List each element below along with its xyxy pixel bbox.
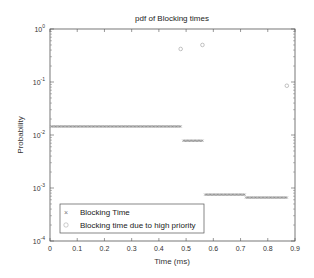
- y-tick-label: 10-3: [33, 182, 45, 192]
- x-tick-label: 0.8: [263, 245, 273, 252]
- x-tick-label: 0.2: [100, 245, 110, 252]
- x-marker-icon: ×: [64, 209, 68, 216]
- x-tick-label: 0.7: [236, 245, 246, 252]
- x-tick-label: 0.9: [290, 245, 300, 252]
- x-axis-label: Time (ms): [154, 257, 190, 266]
- x-tick-label: 0.5: [181, 245, 191, 252]
- y-tick-label: 10-2: [33, 129, 45, 139]
- x-tick-label: 0.3: [127, 245, 137, 252]
- y-tick-label: 10-4: [33, 235, 45, 245]
- x-tick-label: 0: [48, 245, 52, 252]
- legend: × Blocking Time Blocking time due to hig…: [60, 204, 204, 233]
- chart-title: pdf of Blocking times: [135, 14, 209, 23]
- legend-label-high-priority: Blocking time due to high priority: [80, 221, 196, 230]
- x-tick-label: 0.1: [72, 245, 82, 252]
- x-tick-label: 0.4: [154, 245, 164, 252]
- x-tick-label: 0.6: [208, 245, 218, 252]
- y-axis-label: Probability: [16, 116, 25, 153]
- y-tick-label: 10-1: [33, 76, 45, 86]
- chart: pdf of Blocking times 00.10.20.30.40.50.…: [0, 0, 314, 278]
- y-tick-label: 100: [34, 23, 45, 33]
- legend-label-blocking-time: Blocking Time: [80, 208, 130, 217]
